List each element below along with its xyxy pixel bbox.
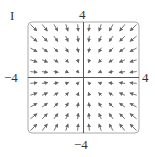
field-arrow: [109, 93, 113, 96]
field-arrow: [77, 82, 79, 84]
field-arrow: [78, 48, 79, 52]
field-arrow: [110, 24, 114, 30]
field-arrow: [30, 72, 37, 73]
field-arrow: [42, 114, 47, 119]
field-arrow: [54, 103, 58, 107]
field-arrow: [78, 103, 79, 107]
field-arrow: [130, 104, 136, 108]
field-arrow: [130, 83, 137, 84]
field-arrow: [30, 60, 37, 62]
field-arrow: [42, 124, 47, 130]
field-arrow: [88, 82, 90, 84]
field-arrow: [66, 124, 68, 131]
field-arrow: [66, 103, 69, 107]
field-arrow: [42, 93, 47, 95]
field-arrow: [120, 36, 125, 41]
field-arrow: [120, 83, 126, 84]
field-arrow: [54, 93, 58, 96]
field-arrow: [78, 36, 79, 42]
field-arrow: [42, 24, 47, 30]
field-arrow: [99, 48, 102, 52]
field-arrow: [120, 124, 125, 130]
field-arrow: [42, 103, 47, 107]
field-arrow: [89, 59, 90, 62]
field-arrow: [109, 103, 113, 107]
field-arrow: [120, 114, 125, 119]
field-arrow: [120, 60, 125, 62]
field-arrow: [30, 93, 37, 95]
field-arrow: [109, 60, 113, 63]
field-arrow: [66, 48, 69, 52]
field-arrow: [99, 60, 102, 63]
field-arrow: [110, 124, 114, 130]
field-arrow: [78, 124, 79, 131]
field-arrow: [30, 48, 36, 52]
field-arrow: [78, 114, 79, 120]
field-arrow: [120, 24, 125, 30]
field-arrow: [31, 124, 37, 130]
field-arrow: [120, 72, 126, 73]
field-arrow: [66, 93, 69, 96]
field-arrow: [89, 24, 90, 31]
field-arrow: [109, 114, 113, 119]
field-arrow: [30, 104, 36, 108]
field-arrow: [42, 48, 47, 52]
field-arrow: [78, 24, 79, 31]
field-arrow: [89, 103, 90, 107]
field-arrow: [99, 83, 102, 84]
field-arrow: [109, 36, 113, 41]
field-arrow: [130, 36, 136, 41]
field-arrow: [130, 48, 136, 52]
field-arrow: [66, 36, 68, 41]
field-arrow: [77, 71, 79, 73]
field-arrow: [109, 72, 113, 73]
field-arrow: [130, 72, 137, 73]
field-arrow: [42, 36, 47, 41]
field-arrow: [130, 93, 137, 95]
field-arrow: [130, 60, 137, 62]
field-arrow: [109, 83, 113, 84]
field-arrow: [99, 24, 101, 31]
field-arrow: [99, 124, 101, 131]
field-arrow: [88, 71, 90, 73]
field-arrow: [66, 60, 69, 63]
field-arrow: [54, 24, 58, 30]
vector-field-plot: [0, 0, 155, 157]
field-arrow: [99, 114, 101, 119]
field-arrow: [89, 93, 90, 96]
field-arrow: [89, 36, 90, 42]
field-arrow: [54, 83, 58, 84]
field-arrow: [77, 59, 78, 62]
field-arrow: [54, 124, 58, 130]
field-arrow: [99, 36, 101, 41]
field-arrow: [30, 114, 36, 119]
field-arrow: [130, 124, 136, 130]
field-arrow: [109, 48, 113, 52]
field-arrow: [65, 83, 68, 84]
field-arrow: [120, 48, 125, 52]
field-arrow: [120, 103, 125, 107]
field-arrow: [54, 48, 58, 52]
field-arrow: [65, 71, 68, 72]
field-arrow: [66, 114, 68, 119]
field-arrow: [89, 124, 90, 131]
field-arrow: [54, 72, 58, 73]
field-arrow: [120, 93, 125, 95]
field-arrow: [77, 93, 78, 96]
field-arrow: [99, 93, 102, 96]
field-arrow: [54, 60, 58, 63]
field-arrow: [89, 114, 90, 120]
field-arrow: [99, 71, 102, 72]
field-arrow: [42, 72, 48, 73]
field-arrow: [66, 24, 68, 31]
field-arrow: [30, 83, 37, 84]
field-arrow: [54, 114, 58, 119]
field-arrow: [42, 60, 47, 62]
field-arrow: [42, 83, 48, 84]
field-arrow: [31, 25, 37, 31]
field-arrow: [130, 114, 136, 119]
field-arrow: [99, 103, 102, 107]
field-arrow: [30, 36, 36, 41]
field-arrow: [89, 48, 90, 52]
field-arrow: [130, 25, 136, 31]
